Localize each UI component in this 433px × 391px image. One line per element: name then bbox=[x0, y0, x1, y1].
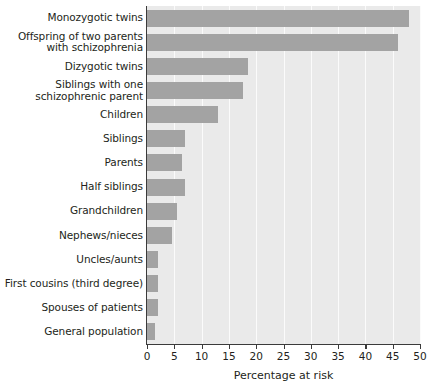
bar bbox=[147, 275, 158, 292]
category-label: Children bbox=[0, 109, 143, 121]
category-label: Monozygotic twins bbox=[0, 12, 143, 24]
bar bbox=[147, 154, 182, 171]
bar bbox=[147, 58, 248, 75]
tick-mark bbox=[284, 345, 285, 349]
x-axis-ticks: 05101520253035404550 bbox=[147, 345, 420, 367]
tick-mark bbox=[174, 345, 175, 349]
bar bbox=[147, 10, 409, 27]
bar-chart: Monozygotic twinsOffspring of two parent… bbox=[0, 0, 433, 391]
tick-mark bbox=[393, 345, 394, 349]
bar-series bbox=[147, 6, 420, 344]
tick-label: 35 bbox=[331, 350, 344, 362]
bar bbox=[147, 179, 185, 196]
tick-mark bbox=[147, 345, 148, 349]
tick-mark bbox=[365, 345, 366, 349]
category-label: General population bbox=[0, 326, 143, 338]
category-label: Siblings with one schizophrenic parent bbox=[0, 79, 143, 102]
bar bbox=[147, 106, 218, 123]
tick-label: 30 bbox=[304, 350, 317, 362]
tick-mark bbox=[202, 345, 203, 349]
tick-label: 25 bbox=[277, 350, 290, 362]
gridline bbox=[420, 6, 421, 344]
category-label: Grandchildren bbox=[0, 205, 143, 217]
bar bbox=[147, 130, 185, 147]
tick-mark bbox=[420, 345, 421, 349]
plot-area bbox=[147, 6, 420, 344]
y-axis-line bbox=[146, 6, 147, 345]
category-label: Uncles/aunts bbox=[0, 254, 143, 266]
bar bbox=[147, 82, 243, 99]
tick-label: 10 bbox=[195, 350, 208, 362]
category-label: Spouses of patients bbox=[0, 302, 143, 314]
bar bbox=[147, 34, 398, 51]
bar bbox=[147, 227, 172, 244]
bar bbox=[147, 203, 177, 220]
x-axis-title: Percentage at risk bbox=[147, 369, 420, 382]
tick-mark bbox=[311, 345, 312, 349]
bar bbox=[147, 323, 155, 340]
tick-mark bbox=[229, 345, 230, 349]
category-label: Nephews/nieces bbox=[0, 230, 143, 242]
category-label: First cousins (third degree) bbox=[0, 278, 143, 290]
tick-label: 5 bbox=[171, 350, 178, 362]
tick-mark bbox=[338, 345, 339, 349]
category-label: Dizygotic twins bbox=[0, 61, 143, 73]
tick-mark bbox=[256, 345, 257, 349]
bar bbox=[147, 251, 158, 268]
bar bbox=[147, 299, 158, 316]
tick-label: 0 bbox=[144, 350, 151, 362]
category-label: Offspring of two parents with schizophre… bbox=[0, 31, 143, 54]
category-label: Parents bbox=[0, 157, 143, 169]
category-label: Half siblings bbox=[0, 181, 143, 193]
tick-label: 45 bbox=[386, 350, 399, 362]
tick-label: 40 bbox=[359, 350, 372, 362]
tick-label: 20 bbox=[250, 350, 263, 362]
tick-label: 15 bbox=[222, 350, 235, 362]
category-axis: Monozygotic twinsOffspring of two parent… bbox=[0, 6, 143, 344]
tick-label: 50 bbox=[413, 350, 426, 362]
category-label: Siblings bbox=[0, 133, 143, 145]
